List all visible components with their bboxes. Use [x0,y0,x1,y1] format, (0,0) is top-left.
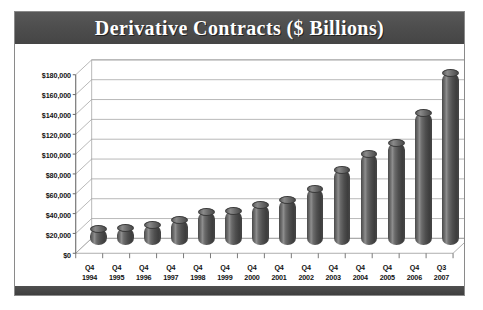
y-axis-tick-label: $160,000 [42,91,71,100]
y-axis: $180,000$160,000$140,000$120,000$100,000… [15,44,71,286]
x-axis-tick-line: 2002 [293,273,320,283]
y-axis-tick-label: $0 [63,251,71,260]
x-axis-tick-line: 2007 [428,273,455,283]
x-axis-tick-line: 1997 [157,273,184,283]
bar [442,73,459,245]
bar [90,229,107,245]
x-axis-tick-label: Q41995 [103,263,130,282]
x-axis-tick-line: Q4 [266,263,293,273]
bar [171,220,188,245]
bar-top-ellipse [388,139,405,147]
bar-body [307,189,324,245]
x-axis-tick-label: Q41994 [76,263,103,282]
x-axis-tick-line: Q4 [320,263,347,273]
x-axis-tick-line: Q4 [157,263,184,273]
bar-top-ellipse [334,166,351,174]
x-axis-tick-label: Q42001 [266,263,293,282]
x-axis-tick-line: 2006 [401,273,428,283]
x-axis-tick-line: Q4 [184,263,211,273]
x-axis-tick-line: Q4 [374,263,401,273]
bar [117,228,134,245]
x-axis-tick-line: 2005 [374,273,401,283]
bar-body [442,73,459,245]
x-axis-tick-label: Q42004 [347,263,374,282]
y-axis-tick-label: $80,000 [46,171,71,180]
bar-body [144,225,161,245]
x-axis-tick-line: 1999 [211,273,238,283]
bar-top-ellipse [198,208,215,216]
bar [198,212,215,245]
bar-top-ellipse [442,69,459,77]
bar [307,189,324,245]
chart-bottom-band [15,286,464,295]
bar-top-ellipse [225,207,242,215]
x-axis-tick-line: Q4 [401,263,428,273]
x-axis-tick-line: 2000 [238,273,265,283]
bar-top-ellipse [307,185,324,193]
x-axis-tick-line: 1994 [76,273,103,283]
chart-title-band: Derivative Contracts ($ Billions) [15,12,464,44]
bar-top-ellipse [117,224,134,232]
x-axis-tick-label: Q42006 [401,263,428,282]
bar-body [225,211,242,245]
bar-body [388,143,405,245]
bar-top-ellipse [415,109,432,117]
bar [388,143,405,245]
bar-top-ellipse [144,221,161,229]
x-axis-tick-label: Q41998 [184,263,211,282]
x-axis-tick-label: Q41997 [157,263,184,282]
x-axis-tick-line: Q4 [211,263,238,273]
x-axis-tick-line: Q4 [238,263,265,273]
bar-top-ellipse [90,225,107,233]
x-axis-tick-label: Q42000 [238,263,265,282]
bar-top-ellipse [361,150,378,158]
y-axis-tick-label: $120,000 [42,131,71,140]
bar [279,200,296,245]
y-axis-tick-label: $40,000 [46,211,71,220]
x-axis-tick-line: 1995 [103,273,130,283]
y-axis-tick-label: $180,000 [42,71,71,80]
x-axis-tick-label: Q41999 [211,263,238,282]
x-axis-tick-line: Q4 [347,263,374,273]
bar [334,170,351,245]
x-axis-tick-line: Q3 [428,263,455,273]
bar-body [252,205,269,245]
bar-top-ellipse [279,196,296,204]
bar-top-ellipse [171,216,188,224]
bar-body [415,113,432,245]
x-axis-tick-label: Q42002 [293,263,320,282]
plot-area: $180,000$160,000$140,000$120,000$100,000… [15,44,464,286]
bar [361,154,378,245]
x-axis-tick-line: 2001 [266,273,293,283]
x-axis-tick-label: Q42005 [374,263,401,282]
bar [252,205,269,245]
x-axis-tick-line: 2003 [320,273,347,283]
y-axis-tick-label: $100,000 [42,151,71,160]
x-axis: Q41994Q41995Q41996Q41997Q41998Q41999Q420… [15,260,464,282]
bar [225,211,242,245]
bar-body [171,220,188,245]
x-axis-tick-line: Q4 [130,263,157,273]
x-axis-tick-label: Q41996 [130,263,157,282]
x-axis-tick-label: Q32007 [428,263,455,282]
bar-body [90,229,107,245]
bar-body [117,228,134,245]
y-axis-tick-label: $60,000 [46,191,71,200]
bar-body [334,170,351,245]
y-axis-tick-label: $140,000 [42,111,71,120]
page-title: Derivative Contracts ($ Billions) [95,17,384,40]
x-axis-tick-line: 1998 [184,273,211,283]
chart-frame: Derivative Contracts ($ Billions) $180,0… [14,11,465,296]
x-axis-tick-line: Q4 [103,263,130,273]
bar-top-ellipse [252,201,269,209]
bar [144,225,161,245]
x-axis-tick-line: Q4 [293,263,320,273]
bar-body [198,212,215,245]
bar-body [279,200,296,245]
x-axis-tick-line: Q4 [76,263,103,273]
x-axis-tick-line: 2004 [347,273,374,283]
x-axis-tick-label: Q42003 [320,263,347,282]
x-axis-tick-line: 1996 [130,273,157,283]
bar [415,113,432,245]
bar-body [361,154,378,245]
